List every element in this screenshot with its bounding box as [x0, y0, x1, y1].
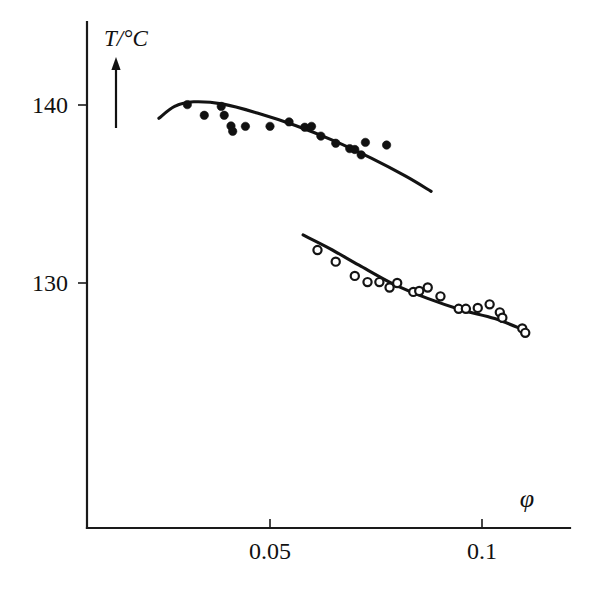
data-point-filled-circle [266, 122, 274, 130]
y-tick-label: 140 [32, 92, 68, 118]
fitted-curve-2 [303, 235, 524, 330]
data-point-open-circle [462, 305, 470, 313]
axes-group [87, 22, 570, 528]
data-point-filled-circle [382, 141, 390, 149]
scatter-plot: 1301400.050.1 T/°C φ [0, 0, 594, 590]
y-axis-title: T/°C [104, 26, 148, 51]
data-point-open-circle [498, 314, 506, 322]
data-point-filled-circle [361, 138, 369, 146]
arrow-head [111, 57, 120, 70]
data-point-open-circle [313, 246, 321, 254]
data-point-filled-circle [200, 111, 208, 119]
y-tick-label: 130 [32, 270, 68, 296]
y-axis-direction-arrow [111, 57, 120, 128]
data-point-filled-circle [285, 118, 293, 126]
data-point-open-circle [486, 300, 494, 308]
data-point-open-circle [363, 278, 371, 286]
data-point-filled-circle [317, 132, 325, 140]
tick-labels-group: 1301400.050.1 [32, 92, 497, 564]
data-point-filled-circle [332, 139, 340, 147]
data-point-open-circle [436, 292, 444, 300]
data-point-open-circle [332, 258, 340, 266]
data-point-filled-circle [241, 122, 249, 130]
data-point-filled-circle [220, 111, 228, 119]
data-point-open-circle [424, 283, 432, 291]
data-point-open-circle [375, 278, 383, 286]
data-point-open-circle [393, 279, 401, 287]
tick-marks-group [78, 105, 482, 529]
data-point-open-circle [474, 304, 482, 312]
x-tick-label: 0.1 [467, 538, 497, 564]
data-point-open-circle [521, 329, 529, 337]
data-point-filled-circle [357, 151, 365, 159]
data-points-group [183, 100, 529, 337]
x-axis-title: φ [520, 484, 534, 513]
figure-panel: 1301400.050.1 T/°C φ [0, 0, 594, 590]
data-point-filled-circle [183, 100, 191, 108]
data-point-open-circle [415, 287, 423, 295]
data-point-filled-circle [217, 102, 225, 110]
data-point-open-circle [351, 272, 359, 280]
fitted-curves-group [159, 102, 524, 330]
data-point-filled-circle [228, 127, 236, 135]
x-tick-label: 0.05 [249, 538, 291, 564]
data-point-filled-circle [307, 122, 315, 130]
